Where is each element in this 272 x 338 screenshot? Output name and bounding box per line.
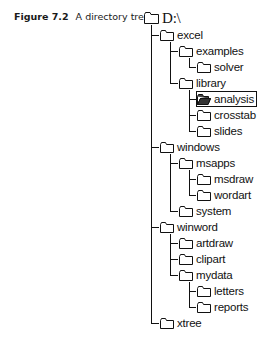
tree-node-label: mydata: [196, 269, 233, 281]
tree-node-label: crosstab: [214, 109, 256, 121]
tree-node-crosstab[interactable]: crosstab: [197, 108, 256, 122]
tree-connector: [189, 67, 196, 68]
tree-node-label: msapps: [196, 157, 235, 169]
tree-node-label: xtree: [177, 317, 202, 329]
tree-node-winword[interactable]: winword: [160, 220, 218, 234]
folder-closed-icon: [197, 174, 211, 185]
folder-closed-icon: [144, 12, 159, 24]
tree-connector: [189, 131, 196, 132]
tree-node-label: reports: [214, 301, 248, 313]
directory-tree: D:\ excel examples solver library analys…: [0, 0, 272, 338]
tree-connector: [170, 42, 171, 84]
tree-node-label: letters: [214, 285, 244, 297]
tree-node-label: windows: [177, 141, 220, 153]
folder-closed-icon: [197, 286, 211, 297]
tree-node-label: system: [196, 205, 231, 217]
tree-node-slides[interactable]: slides: [197, 124, 242, 138]
tree-node-label: solver: [214, 61, 243, 73]
folder-closed-icon: [179, 254, 193, 265]
tree-node-analysis[interactable]: analysis: [197, 92, 256, 106]
tree-node-msapps[interactable]: msapps: [179, 156, 235, 170]
tree-connector: [151, 25, 152, 324]
tree-node-solver[interactable]: solver: [197, 60, 243, 74]
folder-closed-icon: [160, 222, 174, 233]
tree-node-label: excel: [177, 29, 203, 41]
folder-closed-icon: [179, 78, 193, 89]
tree-node-excel[interactable]: excel: [160, 28, 203, 42]
folder-open-icon: [197, 94, 211, 105]
tree-node-label: clipart: [196, 253, 225, 265]
tree-node-label: msdraw: [214, 173, 253, 185]
tree-connector: [151, 323, 159, 324]
tree-node-label: D:\: [162, 10, 181, 27]
folder-closed-icon: [197, 190, 211, 201]
tree-connector: [151, 227, 159, 228]
tree-connector: [170, 259, 178, 260]
tree-connector: [189, 99, 196, 100]
tree-connector: [151, 35, 159, 36]
folder-closed-icon: [179, 270, 193, 281]
folder-closed-icon: [197, 62, 211, 73]
tree-connector: [189, 282, 190, 308]
folder-closed-icon: [197, 126, 211, 137]
tree-connector: [189, 307, 196, 308]
tree-connector: [189, 179, 196, 180]
tree-connector: [189, 170, 190, 196]
tree-node-examples[interactable]: examples: [179, 44, 244, 58]
tree-node-letters[interactable]: letters: [197, 284, 244, 298]
tree-node-clipart[interactable]: clipart: [179, 252, 225, 266]
tree-node-label: examples: [196, 45, 244, 57]
tree-node-wordart[interactable]: wordart: [197, 188, 251, 202]
tree-connector: [170, 234, 171, 276]
tree-node-artdraw[interactable]: artdraw: [179, 236, 233, 250]
tree-node-label: wordart: [214, 189, 251, 201]
tree-connector: [170, 243, 178, 244]
tree-node-msdraw[interactable]: msdraw: [197, 172, 253, 186]
folder-closed-icon: [160, 30, 174, 41]
folder-closed-icon: [179, 46, 193, 57]
tree-node-system[interactable]: system: [179, 204, 231, 218]
tree-node-label: slides: [214, 125, 242, 137]
tree-node-reports[interactable]: reports: [197, 300, 248, 314]
tree-connector: [170, 275, 178, 276]
folder-closed-icon: [179, 238, 193, 249]
folder-closed-icon: [160, 318, 174, 329]
tree-node-label: artdraw: [196, 237, 233, 249]
tree-connector: [170, 211, 178, 212]
tree-node-label: analysis: [214, 93, 254, 105]
folder-closed-icon: [197, 110, 211, 121]
folder-closed-icon: [160, 142, 174, 153]
tree-connector: [170, 51, 178, 52]
tree-node-library[interactable]: library: [179, 76, 226, 90]
tree-connector: [189, 90, 190, 132]
tree-node-mydata[interactable]: mydata: [179, 268, 233, 282]
folder-closed-icon: [179, 158, 193, 169]
tree-connector: [189, 115, 196, 116]
tree-connector: [189, 195, 196, 196]
tree-node-xtree[interactable]: xtree: [160, 316, 202, 330]
folder-closed-icon: [179, 206, 193, 217]
tree-node-windows[interactable]: windows: [160, 140, 220, 154]
tree-node-label: winword: [177, 221, 218, 233]
tree-connector: [170, 163, 178, 164]
tree-connector: [189, 291, 196, 292]
tree-connector: [151, 147, 159, 148]
tree-node-label: library: [196, 77, 226, 89]
tree-node-root[interactable]: D:\: [144, 10, 181, 26]
tree-connector: [170, 83, 178, 84]
folder-closed-icon: [197, 302, 211, 313]
